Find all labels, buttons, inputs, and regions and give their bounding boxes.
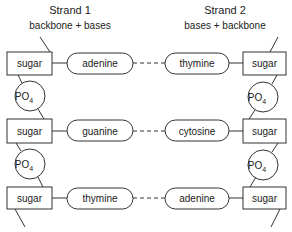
sugar-label: sugar <box>252 193 278 204</box>
backbone-line <box>16 143 21 151</box>
strand1-title: Strand 1 <box>49 4 91 16</box>
sugar-label: sugar <box>17 126 43 137</box>
base-label: cytosine <box>179 126 216 137</box>
backbone-line <box>15 209 25 227</box>
phosphate-label: PO4 <box>248 92 266 105</box>
backbone-line <box>271 209 280 227</box>
base-label: adenine <box>179 193 215 204</box>
base-label: guanine <box>82 126 118 137</box>
backbone-line <box>38 109 44 119</box>
sugar-label: sugar <box>17 193 43 204</box>
backbone-line <box>38 177 43 187</box>
backbone-line <box>249 110 255 119</box>
phosphate-label: PO4 <box>15 159 33 172</box>
phosphate-label: PO4 <box>15 91 33 104</box>
strand2-title: Strand 2 <box>204 4 246 16</box>
base-label: thymine <box>82 193 117 204</box>
base-label: adenine <box>82 58 118 69</box>
sugar-label: sugar <box>252 126 278 137</box>
dna-diagram: Strand 1 backbone + bases Strand 2 bases… <box>0 0 292 232</box>
strand2-subtitle: bases + backbone <box>184 20 266 31</box>
backbone-line <box>272 143 278 152</box>
backbone-line <box>272 75 277 84</box>
strand1-subtitle: backbone + bases <box>29 20 110 31</box>
base-label: thymine <box>179 58 214 69</box>
backbone-line <box>270 37 278 52</box>
backbone-line <box>18 75 22 83</box>
backbone-line <box>40 37 50 52</box>
sugar-label: sugar <box>252 58 278 69</box>
backbone-line <box>250 177 256 187</box>
phosphate-label: PO4 <box>248 160 266 173</box>
sugar-label: sugar <box>17 58 43 69</box>
